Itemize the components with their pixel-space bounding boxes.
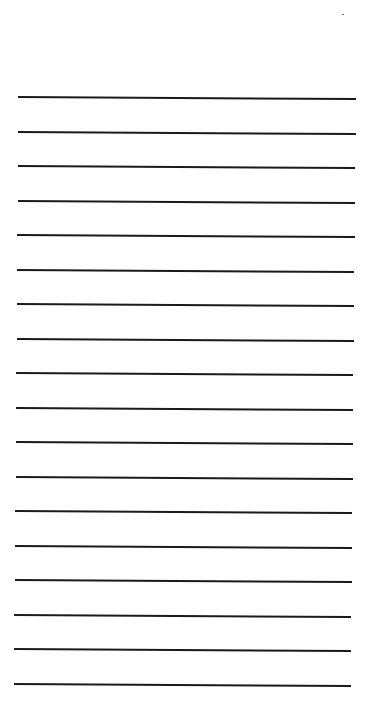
ruled-line xyxy=(16,441,353,445)
ruled-line xyxy=(16,372,353,376)
lined-paper-page xyxy=(0,0,367,702)
ruled-line xyxy=(16,407,353,411)
ruled-line xyxy=(17,338,354,342)
ruled-line xyxy=(14,648,351,652)
ruled-line xyxy=(18,96,356,100)
ruled-line xyxy=(15,579,352,583)
ruled-line xyxy=(14,683,351,687)
paper-speck xyxy=(342,14,344,15)
ruled-line xyxy=(18,165,355,169)
ruled-line xyxy=(15,510,352,514)
ruled-line xyxy=(17,234,355,238)
ruled-line xyxy=(18,200,355,204)
ruled-line xyxy=(14,614,351,618)
ruled-line xyxy=(17,303,354,307)
ruled-line xyxy=(17,269,354,273)
ruled-line xyxy=(16,476,353,480)
ruled-line xyxy=(15,545,352,549)
ruled-line xyxy=(18,131,356,135)
